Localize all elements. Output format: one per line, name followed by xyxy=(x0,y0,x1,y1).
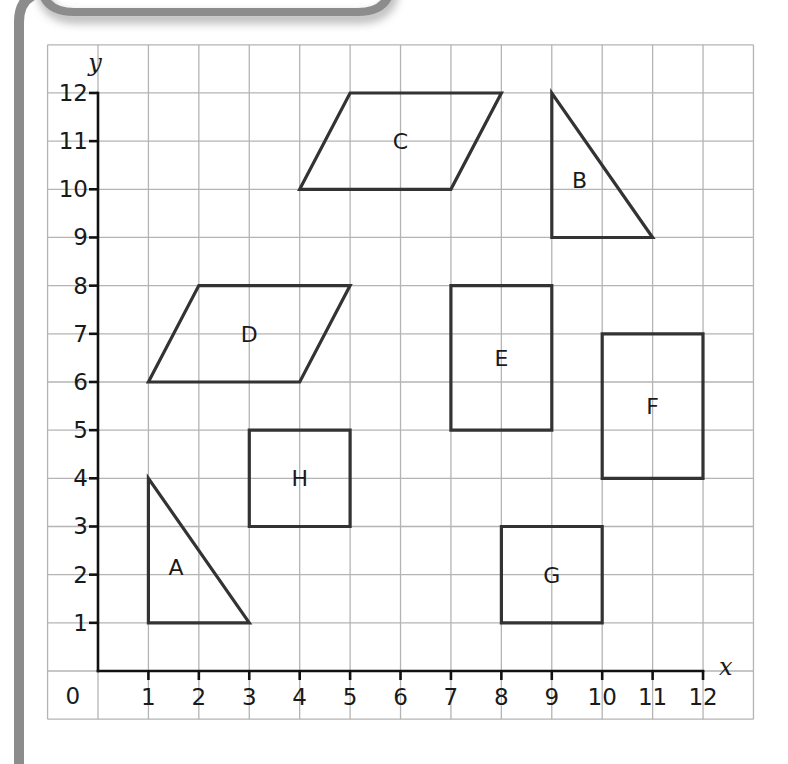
shape-label-c: C xyxy=(393,129,408,154)
x-tick-label: 10 xyxy=(588,684,617,710)
x-tick-label: 3 xyxy=(242,684,257,710)
x-tick-label: 1 xyxy=(141,684,156,710)
labels: ABCDEFGH xyxy=(169,129,659,588)
y-tick-label: 2 xyxy=(73,562,88,588)
y-tick-label: 8 xyxy=(73,273,88,299)
y-tick-label: 6 xyxy=(73,369,88,395)
shape-label-d: D xyxy=(241,322,258,347)
x-tick-label: 2 xyxy=(192,684,207,710)
left-border-bar xyxy=(19,0,43,764)
y-tick-label: 5 xyxy=(73,417,88,443)
x-tick-label: 9 xyxy=(544,684,559,710)
x-tick-label: 7 xyxy=(444,684,459,710)
y-tick-label: 3 xyxy=(73,513,88,539)
y-tick-label: 1 xyxy=(73,610,88,636)
x-tick-label: 8 xyxy=(494,684,509,710)
x-tick-label: 12 xyxy=(688,684,717,710)
shape-label-g: G xyxy=(543,563,560,588)
x-axis-label: x xyxy=(719,653,733,681)
origin-label: 0 xyxy=(65,683,80,709)
x-tick-label: 6 xyxy=(393,684,408,710)
y-tick-label: 9 xyxy=(73,224,88,250)
y-tick-label: 11 xyxy=(59,128,88,154)
y-tick-label: 7 xyxy=(73,321,88,347)
y-tick-label: 4 xyxy=(73,465,88,491)
y-tick-label: 10 xyxy=(59,176,88,202)
shape-label-e: E xyxy=(494,346,508,371)
x-tick-label: 11 xyxy=(638,684,667,710)
shape-label-h: H xyxy=(291,466,308,491)
x-tick-label: 5 xyxy=(343,684,358,710)
coordinate-grid-figure: 1234567891011121234567891011120xy ABCDEF… xyxy=(0,0,788,764)
x-tick-label: 4 xyxy=(292,684,307,710)
shapes xyxy=(148,93,703,623)
shape-label-b: B xyxy=(572,168,587,193)
shape-label-f: F xyxy=(646,394,659,419)
header-tab-outline xyxy=(40,0,392,12)
y-axis-label: y xyxy=(87,49,102,77)
shape-label-a: A xyxy=(169,555,184,580)
y-tick-label: 12 xyxy=(59,80,88,106)
